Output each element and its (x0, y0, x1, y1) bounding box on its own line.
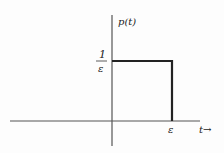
width-label: ε (168, 124, 173, 135)
x-axis-label: t→ (199, 124, 212, 135)
pulse-diagram: p(t) 1 ε ε t→ (0, 0, 224, 153)
pulse-shape (112, 61, 172, 121)
y-axis-label: p(t) (118, 16, 136, 27)
height-denominator: ε (98, 63, 103, 74)
height-numerator: 1 (99, 48, 106, 61)
